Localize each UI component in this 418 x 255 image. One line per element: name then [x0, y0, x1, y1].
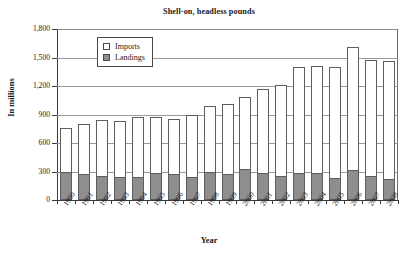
- chart-legend: Imports Landings: [97, 37, 153, 67]
- y-tick-label: 1,500: [4, 54, 50, 62]
- legend-label-imports: Imports: [115, 43, 140, 51]
- legend-swatch-landings-icon: [103, 54, 110, 61]
- x-tick-mark: [272, 200, 273, 204]
- x-tick-mark: [219, 200, 220, 204]
- y-tick-label: 600: [4, 139, 50, 147]
- x-tick-mark: [326, 200, 327, 204]
- legend-item-landings: Landings: [103, 52, 145, 63]
- x-tick-mark: [380, 200, 381, 204]
- x-tick-mark: [129, 200, 130, 204]
- chart-title: Shell-on, headless pounds: [0, 7, 418, 16]
- x-axis-title: Year: [0, 236, 418, 245]
- x-tick-mark: [398, 200, 399, 204]
- x-tick-mark: [147, 200, 148, 204]
- chart-figure: Shell-on, headless pounds In millions 1,…: [0, 0, 418, 255]
- x-tick-mark: [165, 200, 166, 204]
- x-tick-mark: [308, 200, 309, 204]
- y-tick-label: 900: [4, 111, 50, 119]
- x-tick-mark: [75, 200, 76, 204]
- y-tick-label: 1,800: [4, 25, 50, 33]
- x-tick-mark: [93, 200, 94, 204]
- y-axis-title: In millions: [7, 63, 16, 133]
- legend-label-landings: Landings: [115, 54, 145, 62]
- x-tick-mark: [362, 200, 363, 204]
- x-tick-mark: [236, 200, 237, 204]
- x-tick-mark: [254, 200, 255, 204]
- legend-swatch-imports-icon: [103, 43, 110, 50]
- y-tick-label: 300: [4, 168, 50, 176]
- x-tick-mark: [57, 200, 58, 204]
- x-tick-mark: [201, 200, 202, 204]
- y-tick-label: 0: [4, 196, 50, 204]
- x-tick-mark: [344, 200, 345, 204]
- legend-item-imports: Imports: [103, 41, 145, 52]
- x-tick-mark: [290, 200, 291, 204]
- y-tick-label: 1,200: [4, 82, 50, 90]
- x-tick-mark: [111, 200, 112, 204]
- x-tick-mark: [183, 200, 184, 204]
